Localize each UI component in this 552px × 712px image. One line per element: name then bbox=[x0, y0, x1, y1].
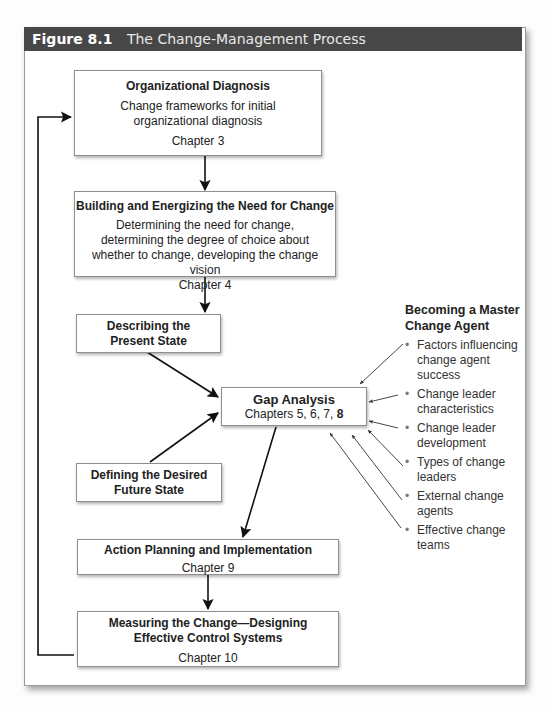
figure-header: Figure 8.1 The Change-Management Process bbox=[24, 27, 522, 51]
box-need-for-change: Building and Energizing the Need for Cha… bbox=[74, 191, 336, 277]
panel-title: Becoming a Master Change Agent bbox=[405, 302, 525, 334]
box-chapter: Chapter 9 bbox=[78, 561, 338, 576]
figure-title: The Change-Management Process bbox=[127, 31, 366, 47]
box-chapter: Chapter 10 bbox=[108, 651, 308, 666]
box-present-state: Describing the Present State bbox=[76, 314, 221, 353]
box-description: Determining the need for change, determi… bbox=[75, 218, 335, 278]
list-item: Effective change teams bbox=[405, 523, 525, 553]
box-action-planning: Action Planning and Implementation Chapt… bbox=[77, 539, 339, 575]
box-title: Gap Analysis bbox=[222, 392, 366, 407]
arrow-present-to-gap bbox=[147, 352, 218, 397]
chapter-highlight: 8 bbox=[337, 407, 344, 421]
box-chapter: Chapter 3 bbox=[75, 134, 321, 149]
box-chapter: Chapter 4 bbox=[75, 278, 335, 293]
feedback-loop-arrow bbox=[38, 117, 74, 655]
box-future-state: Defining the Desired Future State bbox=[76, 463, 222, 502]
box-organizational-diagnosis: Organizational Diagnosis Change framewor… bbox=[74, 70, 322, 156]
box-title: Measuring the Change—Designing Effective… bbox=[108, 616, 308, 646]
list-item: Change leader characteristics bbox=[405, 387, 525, 417]
list-item: Factors influencing change agent success bbox=[405, 338, 525, 383]
box-title: Describing the Present State bbox=[85, 319, 212, 349]
chapters-list: Chapters 5, 6, 7, bbox=[245, 407, 337, 421]
box-title: Defining the Desired Future State bbox=[85, 468, 213, 498]
box-description: Change frameworks for initial organizati… bbox=[75, 99, 321, 129]
box-title: Organizational Diagnosis bbox=[75, 79, 321, 94]
box-gap-analysis: Gap Analysis Chapters 5, 6, 7, 8 bbox=[221, 387, 367, 426]
master-change-agent-panel: Becoming a Master Change Agent Factors i… bbox=[405, 302, 525, 557]
box-title: Action Planning and Implementation bbox=[78, 543, 338, 558]
figure-number: Figure 8.1 bbox=[32, 31, 112, 47]
list-item: Types of change leaders bbox=[405, 455, 525, 485]
panel-list: Factors influencing change agent success… bbox=[405, 338, 525, 553]
box-measuring-change: Measuring the Change—Designing Effective… bbox=[77, 611, 339, 667]
list-item: Change leader development bbox=[405, 421, 525, 451]
box-chapters: Chapters 5, 6, 7, 8 bbox=[222, 407, 366, 422]
arrow-future-to-gap bbox=[150, 413, 218, 462]
arrow-gap-to-action bbox=[243, 427, 276, 537]
box-title: Building and Energizing the Need for Cha… bbox=[75, 199, 335, 214]
list-item: External change agents bbox=[405, 489, 525, 519]
